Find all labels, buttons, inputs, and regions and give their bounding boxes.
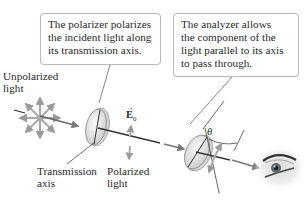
e-field-arrow <box>129 126 131 159</box>
polarized-label-line: Polarized <box>107 165 149 177</box>
analyzer-callout: The analyzer allows the component of the… <box>173 13 299 77</box>
analyzer-axis-line <box>234 130 244 151</box>
transmission-axis-label: Transmission axis <box>37 165 97 189</box>
transmission-label-line: axis <box>37 177 97 189</box>
unpolarized-star-arrows-icon <box>20 98 60 138</box>
analyzer-callout-line: The analyzer allows <box>181 18 292 31</box>
polarized-light-label: Polarized light <box>107 165 149 189</box>
unpolarized-label-line: light <box>3 82 58 94</box>
eye-icon <box>254 146 306 190</box>
unpolarized-label-line: Unpolarized <box>3 70 58 82</box>
polarized-beam <box>98 128 160 143</box>
polarized-beam-head <box>164 144 184 149</box>
polarized-label-line: light <box>107 177 149 189</box>
e-field-subscript: 0 <box>133 115 137 123</box>
analyzer-callout-pointer <box>190 77 232 124</box>
polarizer-callout-pointer <box>99 65 110 103</box>
transmission-label-line: Transmission <box>37 165 97 177</box>
polarizer-callout-line: The polarizer polarizes <box>48 18 154 31</box>
polarizer-callout-line: the incident light along <box>48 31 154 44</box>
polarizer-disk-icon <box>82 106 112 148</box>
analyzer-callout-line: to pass through. <box>181 57 292 70</box>
polarizer-callout: The polarizer polarizes the incident lig… <box>40 13 161 65</box>
incident-beam-dash <box>14 110 25 113</box>
angle-theta-label: θ <box>207 126 212 138</box>
analyzer-callout-line: light parallel to its axis <box>181 44 292 57</box>
analyzer-callout-line: the component of the <box>181 31 292 44</box>
vector-arrow-icon: → <box>127 102 134 114</box>
e-field-label: → E0 <box>126 109 137 125</box>
transmission-axis-pointer <box>67 142 95 164</box>
theta-arc <box>209 139 237 144</box>
polarizer-callout-line: its transmission axis. <box>48 44 154 57</box>
unpolarized-light-label: Unpolarized light <box>3 70 58 94</box>
